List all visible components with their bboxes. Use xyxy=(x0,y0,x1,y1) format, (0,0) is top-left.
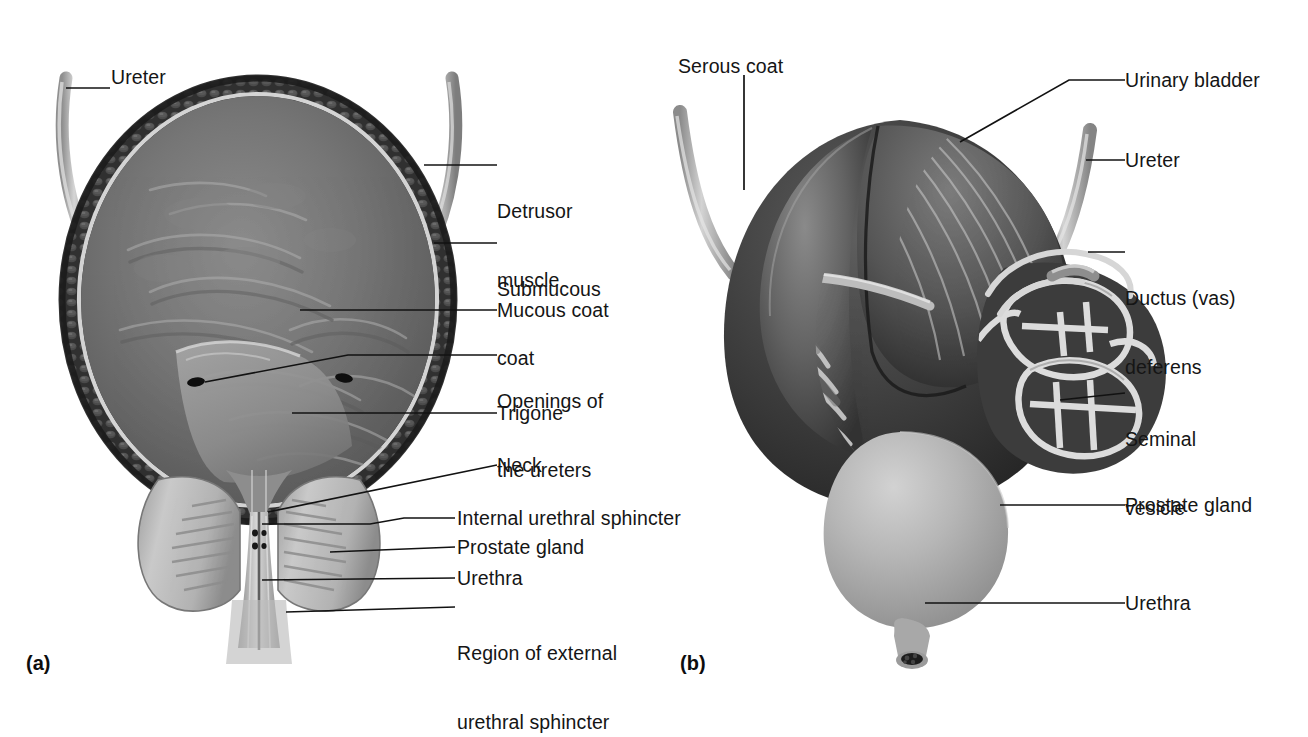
label-urinary-bladder: Urinary bladder xyxy=(1125,69,1260,92)
prostate-gland-b xyxy=(824,432,1008,656)
label-serous-coat: Serous coat xyxy=(678,55,783,78)
ureter-left-b xyxy=(677,112,734,274)
label-ureter-b: Ureter xyxy=(1125,149,1180,172)
label-internal-urethral-sphincter: Internal urethral sphincter xyxy=(457,507,681,530)
label-prostate-gland-b: Prostate gland xyxy=(1125,494,1252,517)
label-region-external-urethral-sphincter: Region of external urethral sphincter xyxy=(457,596,617,737)
label-submucous-line1: Submucous xyxy=(497,278,601,301)
label-ductus-line1: Ductus (vas) xyxy=(1125,287,1236,310)
label-trigone: Trigone xyxy=(497,402,563,425)
label-neck: Neck xyxy=(497,454,542,477)
panel-letter-b: (b) xyxy=(680,652,706,675)
urethra-b xyxy=(896,651,928,669)
label-ext-sphincter-line1: Region of external xyxy=(457,642,617,665)
label-seminal-line1: Seminal xyxy=(1125,428,1196,451)
external-urethral-sphincter-region xyxy=(226,600,292,664)
ductus-deferens-right-b xyxy=(1052,266,1094,276)
label-openings-of-ureters: Openings of the ureters xyxy=(497,344,603,528)
panel-a-artwork xyxy=(59,78,497,664)
label-ductus-line2: deferens xyxy=(1125,356,1236,379)
panel-letter-a: (a) xyxy=(26,652,50,675)
label-ext-sphincter-line2: urethral sphincter xyxy=(457,711,617,734)
panel-b-artwork xyxy=(677,75,1166,669)
label-ureter-a: Ureter xyxy=(111,66,166,89)
label-prostate-gland-a: Prostate gland xyxy=(457,536,584,559)
label-mucous-coat: Mucous coat xyxy=(497,299,609,322)
label-seminal-vesicle: Seminal vesicle xyxy=(1125,382,1196,566)
label-urethra-b: Urethra xyxy=(1125,592,1191,615)
label-detrusor-line1: Detrusor xyxy=(497,200,573,223)
label-urethra-a: Urethra xyxy=(457,567,523,590)
leader-urinary-bladder xyxy=(960,80,1125,142)
